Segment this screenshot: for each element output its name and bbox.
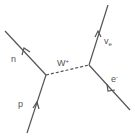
neutron-line (5, 31, 46, 75)
w-boson-label: W+ (57, 58, 70, 68)
neutrino-label: ve (104, 36, 113, 47)
neutrino-line (89, 5, 108, 65)
proton-label: p (18, 99, 23, 109)
electron-line (89, 65, 130, 110)
proton-line (27, 75, 46, 133)
feynman-diagram: n p W+ ve e- (0, 0, 135, 140)
neutron-label: n (11, 54, 16, 64)
electron-label: e- (111, 74, 118, 84)
w-boson-line (46, 65, 89, 75)
